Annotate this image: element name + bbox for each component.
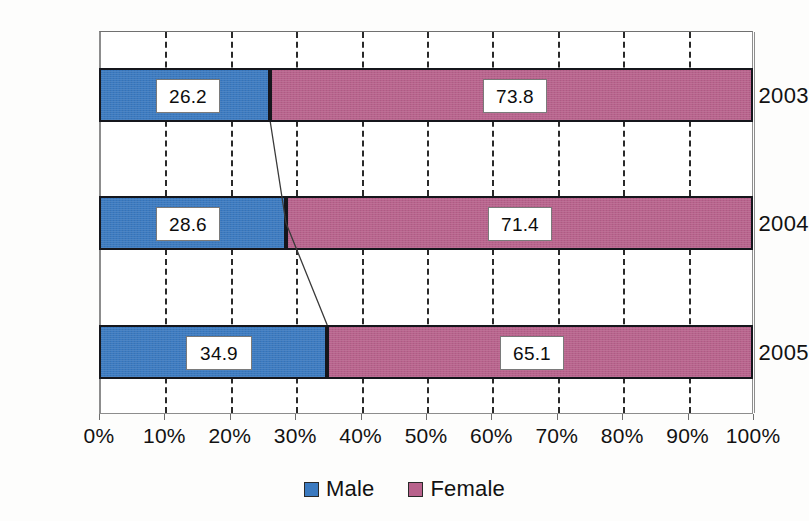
x-tick-label-40: 40% xyxy=(339,424,382,448)
x-tick-label-80: 80% xyxy=(601,424,644,448)
x-tick-label-0: 0% xyxy=(84,424,115,448)
x-tick-mark-0 xyxy=(99,414,100,420)
x-tick-mark-30 xyxy=(295,414,296,420)
x-tick-mark-70 xyxy=(557,414,558,420)
data-label-male-2004: 28.6 xyxy=(156,207,220,241)
legend-swatch-male-icon xyxy=(304,482,319,497)
data-label-male-2005: 34.9 xyxy=(186,336,252,370)
legend-swatch-female-icon xyxy=(408,482,423,497)
x-tick-label-60: 60% xyxy=(470,424,513,448)
x-tick-label-50: 50% xyxy=(405,424,448,448)
x-tick-mark-90 xyxy=(688,414,689,420)
x-tick-mark-50 xyxy=(426,414,427,420)
legend-item-male[interactable]: Male xyxy=(304,476,375,502)
legend: Male Female xyxy=(0,476,809,502)
x-tick-label-100: 100% xyxy=(726,424,781,448)
chart-page: 2003 2004 2005 26.2 73.8 28.6 71.4 34.9 … xyxy=(0,0,809,521)
legend-label-male: Male xyxy=(326,476,375,502)
x-tick-mark-60 xyxy=(491,414,492,420)
x-tick-label-30: 30% xyxy=(274,424,317,448)
x-tick-label-90: 90% xyxy=(666,424,709,448)
x-tick-label-70: 70% xyxy=(535,424,578,448)
x-tick-mark-20 xyxy=(230,414,231,420)
legend-item-female[interactable]: Female xyxy=(408,476,505,502)
x-tick-mark-40 xyxy=(361,414,362,420)
x-tick-label-10: 10% xyxy=(143,424,186,448)
x-tick-label-20: 20% xyxy=(208,424,251,448)
legend-label-female: Female xyxy=(430,476,505,502)
x-tick-mark-80 xyxy=(622,414,623,420)
data-label-female-2004: 71.4 xyxy=(488,207,552,241)
data-label-female-2005: 65.1 xyxy=(500,336,564,370)
data-label-female-2003: 73.8 xyxy=(483,79,547,113)
x-tick-mark-10 xyxy=(164,414,165,420)
x-tick-mark-100 xyxy=(753,414,754,420)
data-label-male-2003: 26.2 xyxy=(156,79,220,113)
